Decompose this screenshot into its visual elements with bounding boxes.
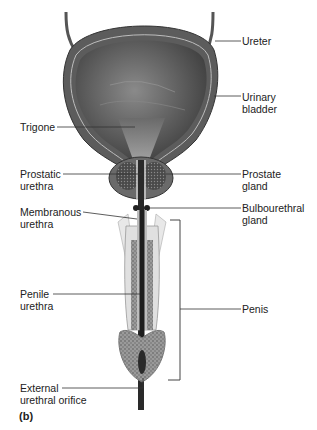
label-bulbourethral-gland-line1: Bulbourethral [242, 202, 304, 214]
label-prostate-gland-line2: gland [242, 180, 268, 192]
label-external-orifice-line2: urethral orifice [20, 394, 87, 406]
penis-bracket [168, 220, 180, 380]
label-penile-urethra-line2: urethra [20, 300, 53, 312]
label-penile-urethra-line1: Penile [20, 288, 49, 300]
label-bulbourethral-gland-line2: gland [242, 214, 268, 226]
label-urinary-bladder-line1: Urinary [242, 91, 276, 103]
label-ureter: Ureter [242, 35, 271, 47]
panel-label: (b) [19, 410, 33, 422]
label-prostatic-urethra-line1: Prostatic [20, 168, 61, 180]
label-trigone: Trigone [20, 121, 55, 133]
label-prostate-gland-line1: Prostate [242, 168, 281, 180]
label-prostatic-urethra-line2: urethra [20, 180, 53, 192]
label-membranous-urethra-line2: urethra [20, 218, 53, 230]
label-urinary-bladder-line2: bladder [242, 103, 277, 115]
label-external-orifice-line1: External [20, 382, 59, 394]
label-penis: Penis [242, 303, 268, 315]
male-urinary-anatomy-diagram: Ureter Urinary bladder Trigone Prostatic… [0, 0, 317, 430]
label-membranous-urethra-line1: Membranous [20, 206, 81, 218]
